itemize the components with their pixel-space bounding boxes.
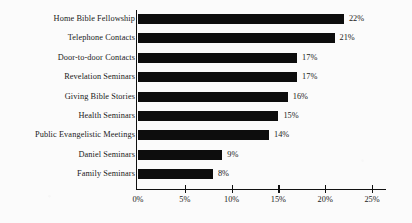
category-label: Daniel Seminars: [0, 150, 135, 160]
x-axis-tick-label: 5%: [179, 195, 190, 205]
bar: [138, 111, 278, 121]
bar: [138, 33, 335, 43]
category-label: Home Bible Fellowship: [0, 14, 135, 24]
category-label: Telephone Contacts: [0, 33, 135, 43]
bar-value-label: 15%: [283, 111, 298, 121]
x-axis-tick: [325, 185, 326, 193]
bar-value-label: 21%: [340, 33, 355, 43]
category-label: Door-to-door Contacts: [0, 53, 135, 63]
bar: [138, 130, 269, 140]
category-label: Health Seminars: [0, 111, 135, 121]
bar: [138, 150, 222, 160]
category-label: Revelation Seminars: [0, 72, 135, 82]
category-label: Public Evangelistic Meetings: [0, 130, 135, 140]
x-axis-tick: [232, 185, 233, 193]
bar: [138, 72, 297, 82]
x-axis-tick-label: 15%: [271, 195, 286, 205]
bar-value-label: 17%: [302, 53, 317, 63]
x-axis-tick: [372, 185, 373, 193]
bar-value-label: 9%: [227, 150, 238, 160]
x-axis-tick-label: 10%: [224, 195, 239, 205]
x-axis-tick: [185, 185, 186, 193]
x-axis-line: [136, 189, 386, 190]
x-axis-tick-label: 20%: [318, 195, 333, 205]
bar: [138, 14, 344, 24]
bar-chart: Home Bible FellowshipTelephone ContactsD…: [0, 0, 412, 223]
bar: [138, 53, 297, 63]
x-axis-tick-label: 0%: [132, 195, 143, 205]
category-label: Giving Bible Stories: [0, 92, 135, 102]
x-axis-tick: [278, 185, 279, 193]
x-axis-tick-label: 25%: [364, 195, 379, 205]
bar: [138, 169, 213, 179]
bar-value-label: 8%: [218, 169, 229, 179]
bar: [138, 92, 288, 102]
bar-value-label: 14%: [274, 130, 289, 140]
category-label: Family Seminars: [0, 169, 135, 179]
bar-value-label: 22%: [349, 14, 364, 24]
bar-value-label: 17%: [302, 72, 317, 82]
bar-value-label: 16%: [293, 92, 308, 102]
